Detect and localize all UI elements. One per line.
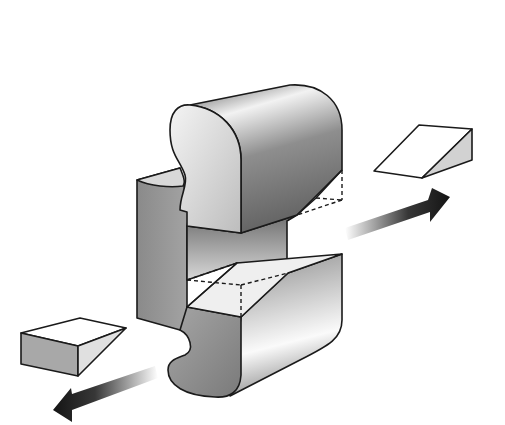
left-wedge — [21, 318, 126, 376]
main-body — [137, 85, 342, 397]
right-wedge — [374, 125, 472, 178]
right-arrow-icon — [345, 188, 450, 240]
diagram-canvas — [0, 0, 505, 425]
